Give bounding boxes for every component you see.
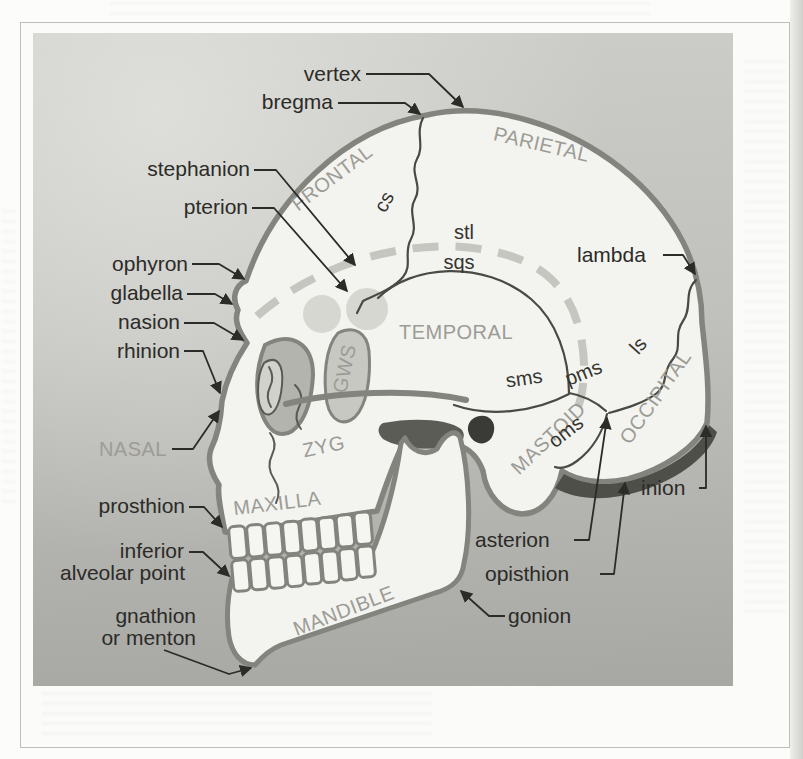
ophyron-label: ophyron — [112, 252, 188, 275]
print-bleed-artifact — [2, 210, 16, 510]
inferior-alveolar-point-label-line1: inferior — [120, 539, 184, 562]
print-bleed-artifact — [744, 60, 786, 620]
tooth — [282, 521, 301, 554]
pterion-highlight — [303, 295, 341, 333]
sqs-label: sqs — [443, 251, 474, 273]
print-bleed-artifact — [110, 2, 650, 18]
tooth — [231, 559, 250, 591]
tooth — [285, 555, 304, 587]
tooth — [354, 512, 373, 545]
tooth — [246, 524, 265, 557]
scanned-textbook-page: FRONTAL PARIETAL TEMPORAL OCCIPITAL MAST… — [0, 0, 803, 759]
gonion-label: gonion — [508, 604, 571, 627]
bregma-label: bregma — [262, 90, 334, 113]
tooth — [318, 517, 337, 550]
glabella-label: glabella — [111, 281, 184, 304]
tooth — [339, 548, 358, 580]
tooth — [300, 518, 319, 551]
inferior-alveolar-point-label-line2: alveolar point — [60, 561, 185, 584]
glabella-leader-line — [187, 294, 232, 304]
inion-label: inion — [641, 476, 685, 499]
rhinion-callout: rhinion — [117, 339, 220, 393]
nasion-callout: nasion — [118, 310, 243, 340]
gonion-leader-line — [461, 591, 505, 616]
nasal-bone-label: NASAL — [99, 438, 167, 460]
asterion-label: asterion — [475, 528, 550, 551]
stl-label: stl — [454, 221, 474, 243]
pterion-label: pterion — [184, 195, 248, 218]
prosthion-label: prosthion — [99, 494, 185, 517]
rhinion-label: rhinion — [117, 339, 180, 362]
inferior-alveolar-point-callout: inferior alveolar point — [60, 539, 229, 584]
ophyron-callout: ophyron — [112, 252, 244, 279]
tooth — [336, 514, 355, 547]
inferior-alveolar-point-leader-line — [189, 552, 229, 576]
tooth — [357, 545, 376, 577]
glabella-callout: glabella — [111, 281, 232, 304]
print-bleed-artifact — [42, 692, 432, 738]
nasal-callout: NASAL — [99, 411, 219, 460]
bregma-callout: bregma — [262, 90, 420, 114]
skull-lateral-diagram: FRONTAL PARIETAL TEMPORAL OCCIPITAL MAST… — [33, 33, 733, 686]
temporal-bone-label: TEMPORAL — [399, 321, 513, 343]
prosthion-leader-line — [189, 507, 222, 527]
tooth — [303, 552, 322, 584]
gnathion-label-line1: gnathion — [115, 604, 196, 627]
gonion-callout: gonion — [461, 591, 571, 627]
opisthion-label: opisthion — [485, 562, 569, 585]
nasion-label: nasion — [118, 310, 180, 333]
stephanion-label: stephanion — [147, 157, 250, 180]
lambda-label: lambda — [577, 243, 646, 266]
nasion-leader-line — [184, 323, 243, 340]
vertex-leader-line — [366, 74, 463, 107]
bregma-leader-line — [338, 103, 420, 114]
gnathion-label-line2: or menton — [101, 626, 196, 649]
ophyron-leader-line — [192, 264, 244, 279]
tooth — [264, 522, 283, 555]
vertex-label: vertex — [304, 62, 362, 85]
tooth — [249, 558, 268, 590]
tooth — [228, 526, 247, 559]
page-scan-edge — [790, 0, 803, 759]
tooth — [321, 551, 340, 583]
tooth — [267, 556, 286, 588]
prosthion-callout: prosthion — [99, 494, 222, 527]
rhinion-leader-line — [184, 351, 220, 393]
